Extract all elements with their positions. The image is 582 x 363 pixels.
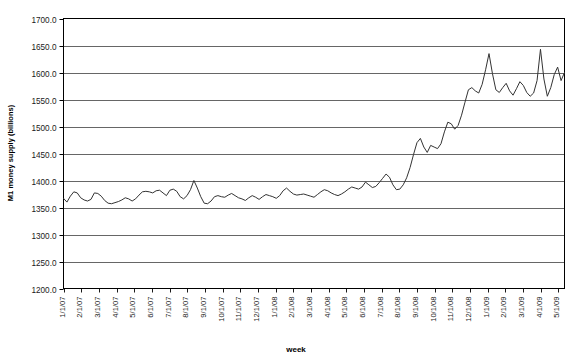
x-axis-tick-label: 7/1/08 xyxy=(376,297,385,318)
y-axis-tick-label: 1400.0 xyxy=(31,178,56,187)
chart-container: 1700.01650.01600.01550.01500.01450.01400… xyxy=(0,0,582,363)
x-axis-tick-label: 3/1/09 xyxy=(517,297,526,318)
x-axis-tick-label: 9/1/08 xyxy=(411,297,420,318)
x-axis-tick-label: 10/1/08 xyxy=(429,297,438,322)
x-axis-title: week xyxy=(285,345,306,354)
y-axis-tick-label: 1450.0 xyxy=(31,151,56,160)
x-axis-tick-label: 7/1/07 xyxy=(164,297,173,318)
x-axis-tick-label: 5/1/08 xyxy=(340,297,349,318)
y-axis-tick-label: 1550.0 xyxy=(31,97,56,106)
x-axis-tick-label: 4/1/07 xyxy=(111,297,120,318)
x-axis-tick-label: 8/1/08 xyxy=(393,297,402,318)
x-axis-tick-label: 12/1/07 xyxy=(252,297,261,322)
x-axis-tick-label: 9/1/07 xyxy=(199,297,208,318)
x-axis-tick-label: 10/1/07 xyxy=(217,297,226,322)
y-axis-title: M1 money supply (billions) xyxy=(6,104,15,201)
x-axis-tick-label: 5/1/09 xyxy=(552,297,561,318)
x-axis-tick-labels-group: 1/1/072/1/073/1/074/1/075/1/076/1/077/1/… xyxy=(58,297,561,322)
x-axis-tick-label: 1/1/07 xyxy=(58,297,67,318)
x-axis-tick-label: 11/1/07 xyxy=(234,297,243,322)
x-axis-tick-label: 4/1/08 xyxy=(323,297,332,318)
y-axis-tick-label: 1650.0 xyxy=(31,43,56,52)
x-axis-tick-label: 6/1/08 xyxy=(358,297,367,318)
x-axis-tick-label: 11/1/08 xyxy=(446,297,455,322)
x-axis-tick-label: 3/1/07 xyxy=(93,297,102,318)
y-axis-tick-label: 1600.0 xyxy=(31,70,56,79)
x-axis-tick-label: 6/1/07 xyxy=(146,297,155,318)
x-axis-tick-label: 2/1/09 xyxy=(499,297,508,318)
x-axis-tick-label: 1/1/09 xyxy=(482,297,491,318)
x-axis-tick-label: 8/1/07 xyxy=(181,297,190,318)
x-axis-tick-label: 4/1/09 xyxy=(535,297,544,318)
x-axis-tick-label: 1/1/08 xyxy=(270,297,279,318)
y-axis-tick-label: 1500.0 xyxy=(31,124,56,133)
x-axis-tick-label: 5/1/07 xyxy=(128,297,137,318)
y-axis-tick-label: 1700.0 xyxy=(31,16,56,25)
y-axis-tick-label: 1250.0 xyxy=(31,259,56,268)
x-axis-tick-label: 12/1/08 xyxy=(464,297,473,322)
x-axis-tick-label: 3/1/08 xyxy=(305,297,314,318)
y-axis-tick-label: 1300.0 xyxy=(31,232,56,241)
m1-money-supply-line-chart: 1700.01650.01600.01550.01500.01450.01400… xyxy=(0,0,582,363)
x-axis-tick-label: 2/1/07 xyxy=(75,297,84,318)
x-axis-tick-label: 2/1/08 xyxy=(287,297,296,318)
y-axis-tick-label: 1200.0 xyxy=(31,286,56,295)
y-axis-tick-label: 1350.0 xyxy=(31,205,56,214)
